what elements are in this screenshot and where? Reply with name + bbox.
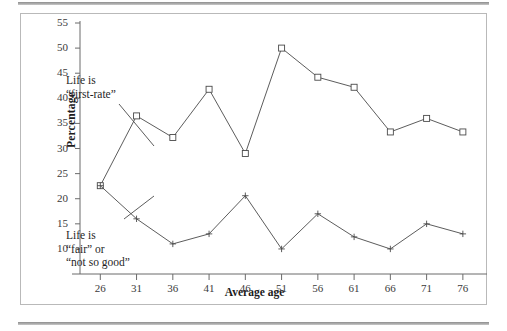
y-axis-tick-label: 25 — [42, 167, 68, 179]
annotation-line: “not so good” — [66, 256, 130, 270]
x-axis-tick-label: 36 — [158, 282, 188, 294]
annotation-line: Life is — [66, 229, 130, 243]
annotation-line: “fair” or — [66, 243, 130, 257]
x-axis-tick-label: 76 — [448, 282, 478, 294]
figure-container: Percentage Average age Life is “first-ra… — [0, 0, 507, 331]
y-axis-tick-label: 30 — [42, 142, 68, 154]
y-axis-tick-label: 40 — [42, 91, 68, 103]
y-axis-tick-label: 45 — [42, 66, 68, 78]
x-axis-tick-label: 41 — [194, 282, 224, 294]
y-axis-tick-label: 10 — [42, 242, 68, 254]
y-axis-tick-label: 35 — [42, 116, 68, 128]
y-axis-tick-label: 55 — [42, 16, 68, 28]
x-axis-tick-label: 61 — [339, 282, 369, 294]
x-axis-tick-label: 46 — [230, 282, 260, 294]
bottom-divider-rule — [18, 322, 489, 325]
y-axis-tick-label: 20 — [42, 192, 68, 204]
y-axis-tick-label: 50 — [42, 41, 68, 53]
annotation-fair-not-so-good: Life is “fair” or “not so good” — [66, 229, 130, 270]
x-axis-tick-label: 31 — [122, 282, 152, 294]
x-axis-tick-label: 51 — [267, 282, 297, 294]
top-divider-rule — [18, 2, 489, 5]
annotation-first-rate: Life is “first-rate” — [66, 74, 116, 101]
x-axis-tick-label: 66 — [375, 282, 405, 294]
x-axis-tick-label: 71 — [412, 282, 442, 294]
y-axis-tick-label: 15 — [42, 217, 68, 229]
annotation-line: Life is — [66, 74, 116, 88]
x-axis-tick-label: 56 — [303, 282, 333, 294]
x-axis-tick-label: 26 — [85, 282, 115, 294]
annotation-line: “first-rate” — [66, 88, 116, 102]
chart-panel: Percentage Average age Life is “first-ra… — [20, 13, 487, 305]
